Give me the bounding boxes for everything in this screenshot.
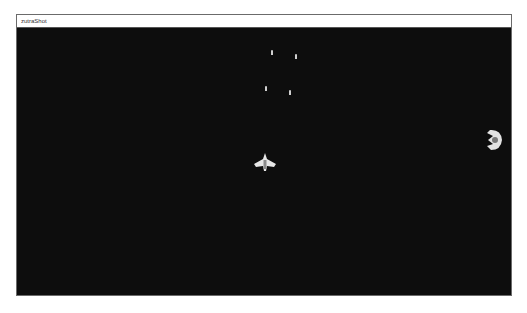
player-ship-icon [252,152,278,174]
bullet [295,54,297,59]
bullet [289,90,291,95]
enemy-ship-icon [484,128,504,152]
window-title: zutraShot [21,17,47,25]
title-bar[interactable]: zutraShot [17,15,511,28]
bullet [265,86,267,91]
bullet [271,50,273,55]
